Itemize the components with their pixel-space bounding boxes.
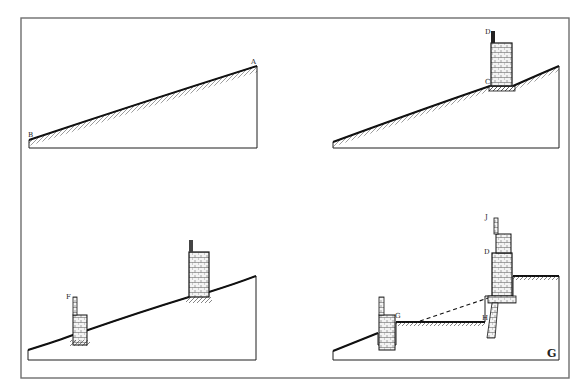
- label-d: D: [485, 28, 491, 36]
- ground-profile: [333, 66, 559, 148]
- upper-wall-extension: [496, 234, 511, 253]
- wall-coping-post: [491, 31, 495, 43]
- label-b: B: [28, 131, 33, 139]
- label-f: F: [66, 293, 71, 301]
- ground-profile: [333, 276, 559, 360]
- lower-wall: [379, 315, 395, 350]
- wall-footing: [488, 296, 516, 303]
- panel-bottom-right: J D G H G: [333, 213, 559, 360]
- label-h: H: [482, 314, 488, 322]
- panel-top-left: A B: [28, 58, 257, 148]
- label-j: J: [484, 213, 488, 221]
- diagram-canvas: A B D C F: [0, 0, 582, 392]
- label-a: A: [250, 58, 257, 66]
- monogram-mark: G: [547, 347, 556, 360]
- label-d: D: [484, 248, 490, 256]
- dashed-sight-line: [420, 298, 488, 321]
- upper-wall: [189, 252, 209, 297]
- wall-footing: [489, 86, 515, 91]
- label-g: G: [395, 312, 401, 320]
- engineering-illustration: A B D C F: [0, 0, 582, 392]
- upper-wall-post: [189, 240, 193, 252]
- upper-wall-post: [494, 218, 498, 234]
- lower-wall-post: [73, 297, 77, 315]
- panel-bottom-left: F: [28, 240, 256, 360]
- upper-wall: [492, 253, 512, 296]
- panel-top-right: D C: [333, 28, 559, 148]
- label-c: C: [485, 78, 490, 86]
- retaining-wall: [491, 43, 512, 86]
- lower-wall-post: [379, 297, 384, 315]
